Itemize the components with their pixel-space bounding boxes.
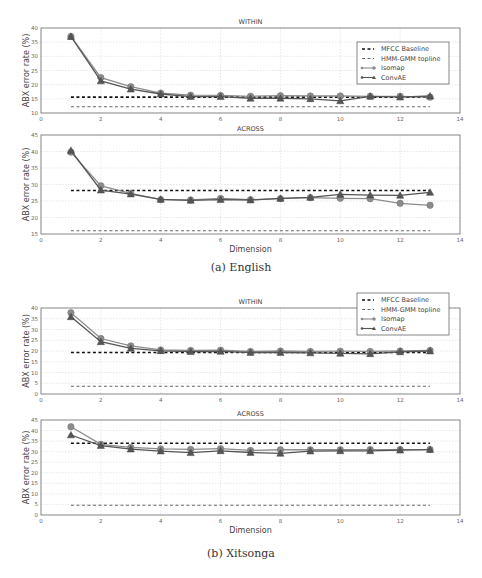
- caption-xitsonga: (b) Xitsonga: [0, 547, 482, 560]
- y-tick-label: 30: [31, 449, 38, 455]
- x-tick-label: 10: [337, 397, 344, 403]
- y-tick-label: 0: [35, 391, 39, 397]
- circle-marker-icon: [372, 317, 376, 321]
- x-tick-label: 4: [159, 237, 163, 243]
- chart-xitsonga-across: 02468101214051015202530354045ACROSSABX e…: [22, 410, 464, 535]
- y-tick-label: 20: [31, 348, 38, 354]
- x-tick-label: 4: [159, 116, 163, 122]
- legend-hmm-label: HMM-GMM topline: [381, 55, 440, 63]
- marker-icon: [361, 327, 364, 330]
- x-tick-label: 14: [457, 518, 464, 524]
- y-axis-label: ABX error rate (%): [22, 148, 31, 222]
- y-tick-label: 15: [31, 231, 38, 237]
- chart-canvas: 0246810121410152025303540WITHINABX error…: [0, 0, 482, 578]
- figure: 0246810121410152025303540WITHINABX error…: [0, 0, 482, 578]
- y-tick-label: 0: [35, 512, 39, 518]
- y-tick-label: 10: [31, 110, 38, 116]
- convae-point-marker: [67, 431, 74, 437]
- convae-line: [71, 151, 430, 201]
- x-tick-label: 4: [159, 518, 163, 524]
- x-tick-label: 0: [39, 518, 43, 524]
- legend-mfcc-label: MFCC Baseline: [381, 45, 429, 53]
- chart-title: WITHIN: [239, 18, 263, 26]
- y-tick-label: 20: [31, 82, 38, 88]
- x-tick-label: 14: [457, 237, 464, 243]
- x-tick-label: 8: [279, 397, 283, 403]
- y-tick-label: 15: [31, 480, 38, 486]
- y-tick-label: 10: [31, 370, 38, 376]
- chart-xitsonga-within: 024681012140510152025303540WITHINABX err…: [22, 293, 464, 403]
- marker-icon: [361, 318, 364, 321]
- x-tick-label: 10: [337, 518, 344, 524]
- x-tick-label: 10: [337, 237, 344, 243]
- circle-marker-icon: [372, 66, 376, 70]
- x-tick-label: 0: [39, 397, 43, 403]
- isomap-line: [71, 427, 430, 451]
- chart-title: WITHIN: [239, 298, 263, 306]
- legend-convae-label: ConvAE: [381, 325, 406, 333]
- legend: MFCC BaselineHMM-GMM toplineIsomapConvAE: [357, 42, 449, 84]
- legend-convae-label: ConvAE: [381, 74, 406, 82]
- y-tick-label: 35: [31, 438, 38, 444]
- x-tick-label: 6: [219, 116, 223, 122]
- legend-mfcc-label: MFCC Baseline: [381, 296, 429, 304]
- y-tick-label: 30: [31, 53, 38, 59]
- y-axis-label: ABX error rate (%): [22, 431, 31, 505]
- y-tick-label: 45: [31, 417, 38, 423]
- y-tick-label: 25: [31, 198, 38, 204]
- isomap-point-marker: [68, 424, 74, 430]
- legend: MFCC BaselineHMM-GMM toplineIsomapConvAE: [357, 293, 449, 335]
- chart-english-across: 0246810121415202530354045ACROSSABX error…: [22, 125, 464, 254]
- x-tick-label: 0: [39, 116, 43, 122]
- y-tick-label: 20: [31, 470, 38, 476]
- y-tick-label: 15: [31, 96, 38, 102]
- x-tick-label: 0: [39, 237, 43, 243]
- marker-icon: [361, 76, 364, 79]
- x-tick-label: 12: [397, 116, 404, 122]
- legend-isomap-label: Isomap: [381, 64, 405, 72]
- y-tick-label: 35: [31, 316, 38, 322]
- y-tick-label: 20: [31, 215, 38, 221]
- x-tick-label: 12: [397, 518, 404, 524]
- y-tick-label: 25: [31, 459, 38, 465]
- y-tick-label: 40: [31, 428, 38, 434]
- x-tick-label: 2: [99, 116, 103, 122]
- caption-english: (a) English: [0, 261, 482, 274]
- x-tick-label: 8: [279, 116, 283, 122]
- legend-isomap-label: Isomap: [381, 315, 405, 323]
- y-tick-label: 25: [31, 337, 38, 343]
- plot-frame: [41, 420, 460, 515]
- x-axis-label: Dimension: [229, 245, 272, 254]
- x-tick-label: 6: [219, 237, 223, 243]
- x-axis-label: Dimension: [229, 526, 272, 535]
- y-axis-label: ABX error rate (%): [22, 34, 31, 108]
- x-tick-label: 6: [219, 397, 223, 403]
- x-tick-label: 14: [457, 116, 464, 122]
- x-tick-label: 6: [219, 518, 223, 524]
- y-tick-label: 45: [31, 132, 38, 138]
- y-tick-label: 30: [31, 327, 38, 333]
- y-axis-label: ABX error rate (%): [22, 314, 31, 388]
- y-tick-label: 25: [31, 68, 38, 74]
- legend-hmm-label: HMM-GMM topline: [381, 306, 440, 314]
- y-tick-label: 35: [31, 165, 38, 171]
- y-tick-label: 5: [35, 380, 39, 386]
- y-tick-label: 35: [31, 39, 38, 45]
- y-tick-label: 40: [31, 25, 38, 31]
- x-tick-label: 12: [397, 237, 404, 243]
- x-tick-label: 4: [159, 397, 163, 403]
- y-tick-label: 5: [35, 501, 39, 507]
- isomap-point-marker: [397, 200, 403, 206]
- isomap-point-marker: [427, 202, 433, 208]
- x-tick-label: 2: [99, 397, 103, 403]
- marker-icon: [361, 67, 364, 70]
- x-tick-label: 8: [279, 237, 283, 243]
- y-tick-label: 15: [31, 359, 38, 365]
- x-tick-label: 8: [279, 518, 283, 524]
- x-tick-label: 2: [99, 518, 103, 524]
- y-tick-label: 40: [31, 305, 38, 311]
- y-tick-label: 40: [31, 149, 38, 155]
- chart-title: ACROSS: [237, 410, 264, 418]
- chart-title: ACROSS: [237, 125, 264, 133]
- x-tick-label: 12: [397, 397, 404, 403]
